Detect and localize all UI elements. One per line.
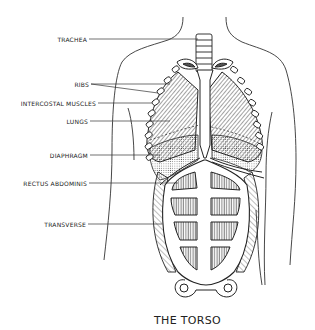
trachea [196, 34, 212, 72]
label-diaphragm: DIAPHRAGM [50, 152, 88, 159]
torso-illustration [0, 0, 315, 330]
label-intercostal-muscles: INTERCOSTAL MUSCLES [21, 100, 96, 107]
figure-title: THE TORSO [0, 314, 315, 327]
label-trachea: TRACHEA [57, 36, 87, 43]
label-rectus-abdominis: RECTUS ABDOMINIS [23, 180, 87, 187]
label-ribs: RIBS [74, 81, 89, 88]
label-lungs: LUNGS [67, 118, 88, 125]
label-transverse: TRANSVERSE [44, 221, 86, 228]
